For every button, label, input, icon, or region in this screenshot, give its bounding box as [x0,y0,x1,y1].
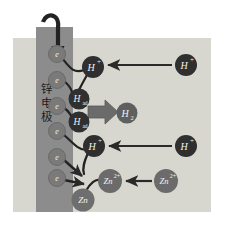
electron-circle [49,170,66,187]
zinc-ion-circle-surface [98,169,122,193]
electron-circle [49,46,66,63]
electron-circle [49,149,66,166]
adsorbed-hydrogen-circle [69,112,90,133]
diagram-canvas: 锌 电 极 [0,0,225,232]
adsorbed-hydrogen-circle [69,89,90,110]
electron-circle [49,98,66,115]
zinc-atom-group: Zn [72,189,95,212]
electrochemistry-diagram: 锌 电 极 [0,0,225,232]
hydrogen-gas-group: H 2 [117,103,138,124]
electron-circle [49,72,66,89]
zinc-atom-circle [72,189,95,212]
zinc-ion-circle-bulk [154,169,178,193]
electron-circle [49,123,66,140]
proton-circle-surface [83,135,105,157]
proton-circle-surface [82,56,104,78]
hydrogen-gas-circle [117,103,138,124]
proton-circle-bulk [175,54,197,76]
proton-circle-bulk [175,135,197,157]
